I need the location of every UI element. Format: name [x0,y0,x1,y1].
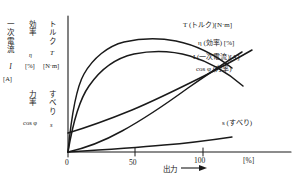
curve-label-slip: s (すべり) [222,120,252,127]
x-axis-arrow-icon [181,165,207,171]
curve-label-torque: T (トルク)[N·m] [183,22,232,29]
curve-label-powerfactor: cos φ (力率) [196,66,232,73]
x-tick-label-0: 0 [65,158,69,167]
x-axis-unit: [%] [243,156,254,165]
curve-label-current: I (一次電流)[A] [193,54,239,61]
chart-figure: 一次電流 I [A] 効率 η [%] トルク T [N·m] 力率 cos φ… [0,0,297,190]
x-tick-label-100: 100 [194,156,205,165]
x-axis-title: 出力 [163,163,177,174]
x-tick-label-50: 50 [129,158,137,167]
curve-label-efficiency: η (効率) [%] [198,40,234,47]
